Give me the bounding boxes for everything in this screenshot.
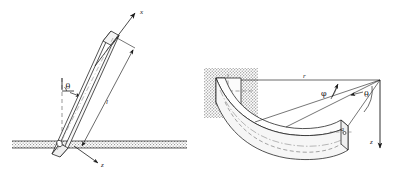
theta-angle-group: θ [351,86,372,112]
radius-construction: r [241,72,380,127]
left-theta-label: θ [66,82,71,91]
rod-front-face [52,31,111,154]
ground-band [12,141,187,148]
radius-label: r [303,72,306,80]
right-diagram-group: a a [204,68,380,160]
rod-centerline [57,38,113,150]
right-z-axis-group: z [369,80,380,148]
figure-root: θ x l [0,0,403,174]
z-axis-label: z [100,161,104,169]
ground-hatching [12,141,187,148]
figure-canvas: θ x l [0,0,403,174]
free-section-dimension-label: a [341,126,344,132]
phi-label: φ [321,89,327,98]
length-label: l [106,98,108,106]
radial-line-to-beam [286,80,380,127]
radial-line-to-free-end [348,80,380,126]
left-diagram-group: θ x l [12,8,187,169]
phi-arrow [331,84,338,99]
z-axis-arrow [74,146,98,163]
length-dim-upper-tick [117,38,135,48]
right-theta-label: θ [364,90,369,99]
rod-right-face [60,36,119,158]
radial-line-secondary [255,80,380,122]
right-z-axis-label: z [369,138,373,146]
x-axis-label: x [139,8,144,16]
